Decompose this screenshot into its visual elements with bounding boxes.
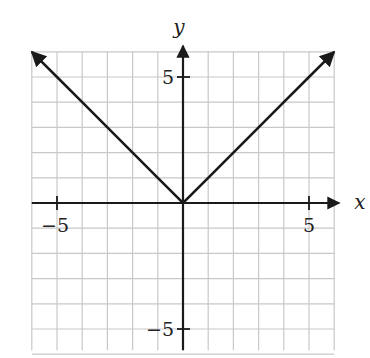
x-tick-label: 5 (303, 214, 315, 236)
y-axis-label: y (172, 15, 185, 39)
x-tick-label: −5 (41, 214, 69, 236)
x-axis-label: x (354, 190, 365, 214)
y-tick-label: 5 (162, 66, 174, 88)
graph-plot: −555−5xy (0, 0, 370, 358)
y-tick-label: −5 (146, 318, 174, 340)
